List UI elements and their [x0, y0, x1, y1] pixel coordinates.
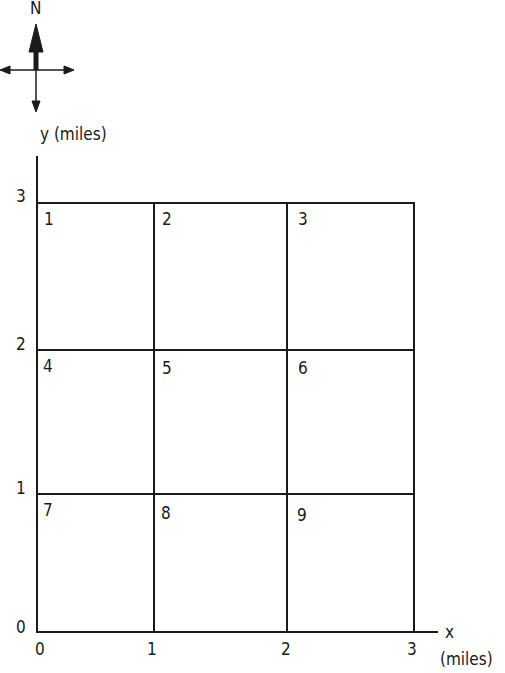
- y-tick-2: 2: [16, 336, 26, 353]
- cell-label-9: 9: [297, 507, 307, 524]
- cell-label-3: 3: [298, 211, 308, 228]
- cell-label-2: 2: [162, 211, 172, 228]
- cell-label-5: 5: [162, 360, 172, 377]
- grid-lines: [37, 203, 415, 632]
- y-tick-0: 0: [16, 619, 26, 636]
- cell-label-4: 4: [43, 358, 53, 375]
- axes: [36, 156, 438, 633]
- x-tick-0: 0: [35, 641, 45, 658]
- cell-label-6: 6: [298, 360, 308, 377]
- y-axis-label: y (miles): [40, 126, 107, 143]
- x-axis-unit: (miles): [440, 651, 493, 668]
- cell-label-8: 8: [161, 505, 171, 522]
- x-axis-label: x: [445, 624, 454, 641]
- y-tick-3: 3: [16, 188, 26, 205]
- cell-label-1: 1: [44, 211, 54, 228]
- x-tick-2: 2: [281, 641, 291, 658]
- y-tick-1: 1: [16, 480, 26, 497]
- north-label: N: [30, 0, 41, 17]
- x-tick-1: 1: [147, 641, 157, 658]
- x-tick-3: 3: [407, 641, 417, 658]
- cell-label-7: 7: [43, 502, 53, 519]
- grid-diagram: [0, 0, 505, 673]
- compass-icon: [0, 24, 74, 112]
